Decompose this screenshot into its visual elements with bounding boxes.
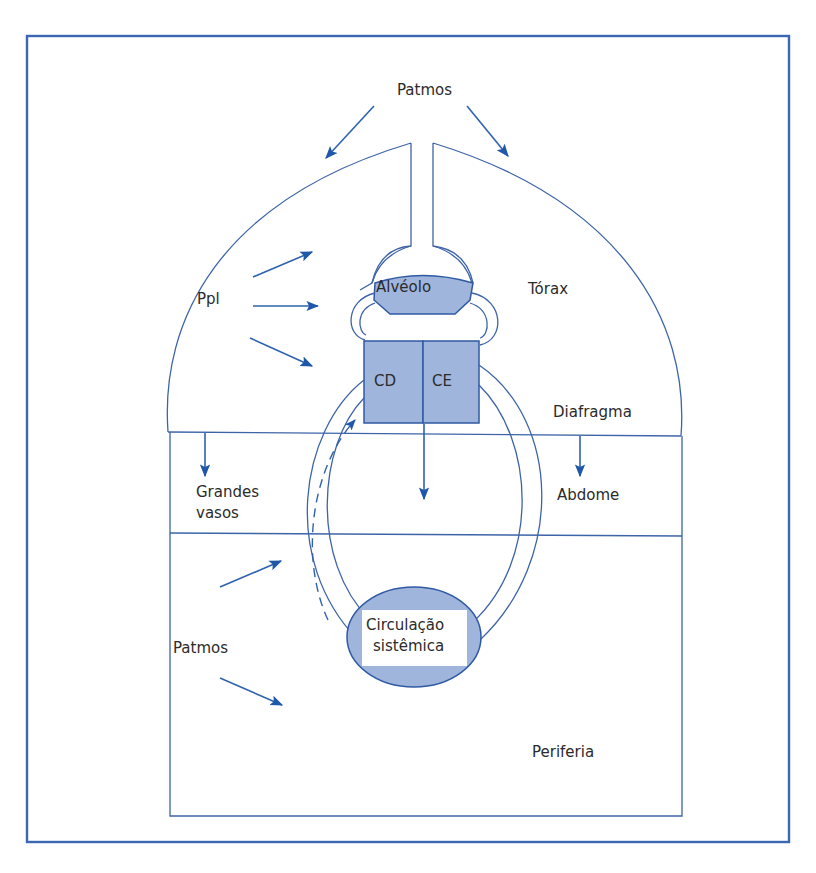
pulmonary-loop-right [470, 293, 498, 345]
label-patmos-left: Patmos [173, 639, 228, 657]
label-torax: Tórax [527, 280, 568, 298]
outer-frame [27, 36, 789, 842]
label-sistemica: sistêmica [373, 637, 444, 655]
label-cd: CD [374, 372, 396, 390]
label-diafragma: Diafragma [553, 403, 632, 421]
systemic-loop-right-outer [479, 365, 542, 640]
ppl-arrow-1 [253, 252, 312, 277]
label-vasos: vasos [196, 504, 239, 522]
label-periferia: Periferia [532, 743, 594, 761]
label-alveolo: Alvéolo [376, 278, 431, 296]
abdomen-line [170, 533, 682, 536]
label-ce: CE [432, 372, 452, 390]
systemic-loop-left-inner [327, 398, 370, 620]
pulmonary-loop-left [351, 293, 375, 340]
systemic-loop-right-inner [473, 385, 522, 622]
label-ppl: Ppl [197, 290, 220, 308]
label-grandes: Grandes [196, 483, 259, 501]
diagram-canvas: Patmos Ppl Alvéolo Tórax CD CE Diafragma… [0, 0, 816, 873]
periphery-arrow-2 [220, 678, 282, 705]
venous-return-dashed-arrow [312, 420, 355, 620]
periphery-arrow-1 [220, 561, 281, 587]
ppl-arrow-3 [250, 338, 312, 366]
label-patmos-top: Patmos [397, 81, 452, 99]
label-abdome: Abdome [557, 486, 619, 504]
systemic-loop-left-outer [307, 380, 364, 640]
patmos-arrow-right [467, 106, 508, 156]
label-circulacao: Circulação [366, 616, 444, 634]
patmos-arrow-left [326, 106, 374, 158]
